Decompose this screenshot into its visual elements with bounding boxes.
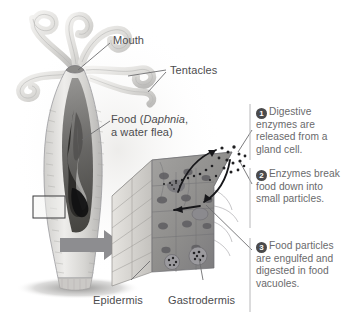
callout-3-badge: 3 bbox=[256, 242, 267, 253]
inset-selection-box bbox=[33, 196, 65, 218]
hydra-digestion-figure: Mouth Tentacles Food (Daphnia, a water f… bbox=[0, 0, 347, 317]
callout-3-text: Food particles are engulfed and digested… bbox=[256, 240, 334, 289]
label-food-line1: Food ( bbox=[111, 113, 143, 125]
callout-2-text: Enzymes break food down into small parti… bbox=[256, 168, 340, 204]
callout-3: 3Food particles are engulfed and digeste… bbox=[256, 240, 344, 290]
label-food-comma: , bbox=[185, 113, 188, 125]
label-epidermis: Epidermis bbox=[93, 294, 143, 307]
label-mouth: Mouth bbox=[113, 34, 144, 47]
label-food: Food (Daphnia, a water flea) bbox=[111, 113, 188, 138]
callout-2-badge: 2 bbox=[256, 170, 267, 181]
label-gastrodermis: Gastrodermis bbox=[168, 294, 235, 307]
label-food-line2: a water flea) bbox=[111, 126, 173, 138]
label-tentacles: Tentacles bbox=[170, 64, 217, 77]
callout-2: 2Enzymes break food down into small part… bbox=[256, 168, 344, 206]
callout-1-badge: 1 bbox=[256, 108, 267, 119]
label-food-italic: Daphnia bbox=[143, 113, 185, 125]
callout-1: 1Digestive enzymes are released from a g… bbox=[256, 106, 344, 156]
